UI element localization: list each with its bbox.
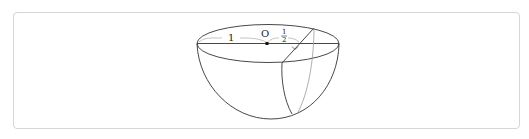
right-angle-mark xyxy=(292,47,298,50)
cut-curve-back xyxy=(297,28,314,114)
cut-curve-front xyxy=(282,63,292,114)
bowl-outline xyxy=(197,44,339,119)
cut-chord xyxy=(282,28,314,63)
radius-label: 1 xyxy=(228,32,234,43)
hemisphere-diagram: 1 O 1 2 xyxy=(0,0,529,139)
center-point xyxy=(266,42,269,45)
center-label: O xyxy=(261,28,269,39)
distance-denominator: 2 xyxy=(282,36,286,44)
distance-numerator: 1 xyxy=(282,28,286,36)
